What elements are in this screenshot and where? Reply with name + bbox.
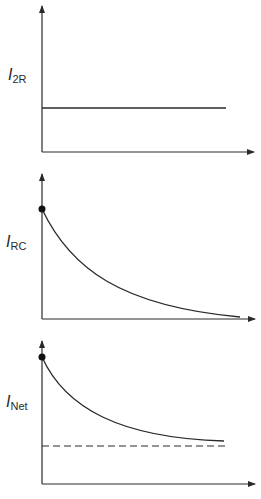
axis-label-irc: IRC	[6, 233, 26, 252]
axis-label-i2r: I2R	[8, 66, 27, 85]
panel-i2r: I2R	[8, 6, 254, 152]
net-decay-curve	[42, 357, 224, 441]
initial-point-dot	[39, 354, 46, 361]
panel-inet: INet	[6, 341, 255, 484]
initial-point-dot	[39, 206, 46, 213]
panel-irc: IRC	[6, 174, 255, 319]
axis-label-inet: INet	[6, 393, 28, 412]
current-graphs-diagram: I2R IRC INet	[0, 0, 261, 499]
decay-curve	[42, 209, 240, 317]
